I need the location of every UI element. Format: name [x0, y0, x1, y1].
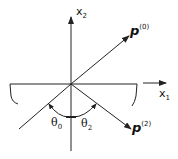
p2-superscript: (2)	[141, 120, 151, 128]
theta0-label: θ0	[51, 117, 62, 131]
p2-label: p(2)	[132, 121, 151, 134]
theta2-label: θ2	[81, 118, 92, 132]
x2-axis-label: x2	[76, 6, 87, 20]
theta0-subscript: 0	[58, 123, 62, 131]
theta0-name: θ	[51, 116, 58, 129]
diagram-canvas	[0, 0, 178, 159]
p2-name: p	[132, 120, 141, 135]
left-bracket	[10, 84, 18, 104]
theta2-subscript: 2	[88, 124, 92, 132]
p0-superscript: (0)	[139, 23, 149, 31]
p0-label: p(0)	[130, 24, 149, 37]
x1-subscript: 1	[166, 94, 170, 102]
x2-subscript: 2	[83, 12, 87, 20]
p0-vector	[71, 36, 129, 84]
p2-vector	[71, 84, 131, 129]
p0-name: p	[130, 23, 139, 38]
theta2-arc	[73, 104, 96, 117]
right-bracket	[132, 84, 137, 106]
theta2-name: θ	[81, 117, 88, 130]
incident-line	[19, 84, 71, 129]
x1-axis-label: x1	[159, 88, 170, 102]
